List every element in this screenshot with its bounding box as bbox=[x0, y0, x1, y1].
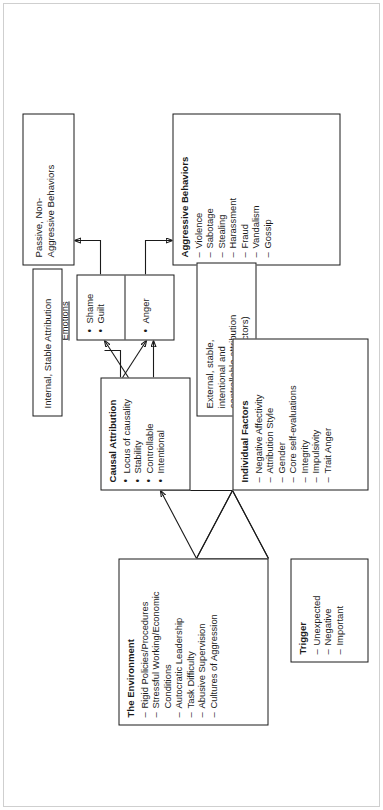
individual-factors-list: Negative Affectivity Attribution Style G… bbox=[252, 346, 332, 482]
list-item: Core self-evaluations bbox=[286, 346, 297, 482]
list-item: Impulsivity bbox=[309, 346, 320, 482]
node-emotions: Shame Guilt Anger bbox=[76, 274, 174, 340]
wire-environment-to-individual bbox=[196, 490, 232, 558]
emotions-right-list: Anger bbox=[139, 282, 150, 332]
list-item: Attribution Style bbox=[263, 346, 274, 482]
node-individual-factors: Individual Factors Negative Affectivity … bbox=[232, 338, 368, 490]
individual-factors-header: Individual Factors bbox=[238, 346, 250, 482]
node-passive-behaviors: Passive, Non- Aggressive Behaviors bbox=[22, 113, 74, 265]
environment-list: Rigid Policies/Procedures Stressful Work… bbox=[138, 566, 218, 717]
trigger-header: Trigger bbox=[296, 566, 308, 654]
list-item: Task Difficulty bbox=[184, 566, 195, 717]
wire-environment-to-causal bbox=[160, 490, 196, 558]
passive-behaviors-line2: Aggressive Behaviors bbox=[44, 121, 56, 257]
external-attribution-line1: External, stable, bbox=[203, 270, 215, 408]
emotions-left-list: Shame Guilt bbox=[83, 282, 106, 332]
list-item: Sabotage bbox=[203, 121, 214, 257]
list-item: Stability bbox=[131, 385, 142, 482]
diagram-canvas: Passive, Non- Aggressive Behaviors Aggre… bbox=[0, 0, 383, 810]
list-item: Anger bbox=[139, 282, 150, 332]
list-item: Shame bbox=[83, 282, 94, 332]
list-item: Stealing bbox=[215, 121, 226, 257]
wire-causal-to-internal-a bbox=[104, 350, 120, 377]
rotated-diagram-wrapper: Passive, Non- Aggressive Behaviors Aggre… bbox=[0, 0, 383, 810]
list-item: Intentional bbox=[154, 385, 165, 482]
aggressive-behaviors-list: Violence Sabotage Stealing Harassment Fr… bbox=[192, 121, 272, 257]
causal-attribution-list: Locus of causality Stability Controllabl… bbox=[120, 385, 166, 482]
node-aggressive-behaviors: Aggressive Behaviors Violence Sabotage S… bbox=[172, 113, 340, 265]
list-item: Important bbox=[333, 566, 344, 654]
list-item: Integrity bbox=[298, 346, 309, 482]
external-attribution-line2: intentional and bbox=[215, 270, 227, 408]
internal-attribution-text: Internal, Stable Attribution bbox=[41, 276, 53, 408]
aggressive-behaviors-header: Aggressive Behaviors bbox=[178, 121, 190, 257]
list-item: Controllable bbox=[143, 385, 154, 482]
list-item: Gender bbox=[275, 346, 286, 482]
wire-anger-to-aggressive bbox=[145, 240, 172, 274]
diagram-stage: Passive, Non- Aggressive Behaviors Aggre… bbox=[0, 0, 383, 810]
list-item: Locus of causality bbox=[120, 385, 131, 482]
list-item: Stressful Working/Economic bbox=[149, 566, 160, 717]
list-item: Negative bbox=[321, 566, 332, 654]
list-item: Negative Affectivity bbox=[252, 346, 263, 482]
wire-diamond-lower bbox=[196, 490, 268, 558]
emotions-cell-anger: Anger bbox=[125, 275, 175, 339]
wire-trigger-to-individual bbox=[232, 490, 268, 558]
list-item: Cultures of Aggression bbox=[207, 566, 218, 717]
list-item: Conditions bbox=[161, 566, 172, 717]
list-item: Violence bbox=[192, 121, 203, 257]
list-item: Rigid Policies/Procedures bbox=[138, 566, 149, 717]
list-item: Harassment bbox=[226, 121, 237, 257]
list-item: Guilt bbox=[94, 282, 105, 332]
list-item: Fraud bbox=[238, 121, 249, 257]
passive-behaviors-line1: Passive, Non- bbox=[32, 121, 44, 257]
node-causal-attribution: Causal Attribution Locus of causality St… bbox=[100, 377, 190, 490]
list-item: Gossip bbox=[261, 121, 272, 257]
list-item: Autocratic Leadership bbox=[172, 566, 183, 717]
list-item: Unexpected bbox=[310, 566, 321, 654]
node-trigger: Trigger Unexpected Negative Important bbox=[290, 558, 368, 662]
wire-emotions-to-passive bbox=[74, 240, 100, 274]
node-the-environment: The Environment Rigid Policies/Procedure… bbox=[118, 558, 268, 725]
node-internal-stable-attribution: Internal, Stable Attribution bbox=[32, 268, 62, 416]
causal-attribution-header: Causal Attribution bbox=[106, 385, 118, 482]
list-item: Vandalism bbox=[249, 121, 260, 257]
list-item: Trait Anger bbox=[321, 346, 332, 482]
trigger-list: Unexpected Negative Important bbox=[310, 566, 344, 654]
emotions-cell-shame-guilt: Shame Guilt bbox=[77, 275, 124, 339]
list-item: Abusive Supervision bbox=[195, 566, 206, 717]
environment-header: The Environment bbox=[124, 566, 136, 717]
